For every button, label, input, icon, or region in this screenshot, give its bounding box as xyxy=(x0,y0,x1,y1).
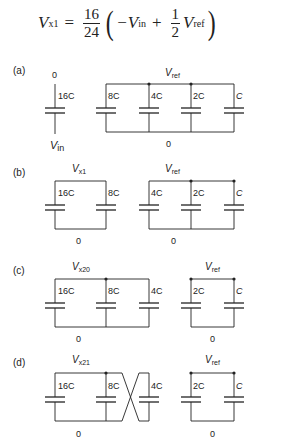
panel-c-ground-right: 0 xyxy=(210,334,215,344)
panel-b-ground-left: 0 xyxy=(76,236,81,246)
cap-c-b: C xyxy=(236,188,243,198)
cap-c-a: C xyxy=(236,91,243,101)
panel-a-vin: Vin xyxy=(50,139,64,153)
panel-c-ground-left: 0 xyxy=(76,334,81,344)
cap-2c-a: 2C xyxy=(193,91,205,101)
panel-a-label: (a) xyxy=(13,65,25,76)
panel-b-label: (b) xyxy=(13,167,25,178)
cap-8c-b: 8C xyxy=(108,188,120,198)
cap-16c-d: 16C xyxy=(58,381,75,391)
cap-2c-c: 2C xyxy=(193,286,205,296)
cap-8c-a: 8C xyxy=(108,91,120,101)
cap-16c-b: 16C xyxy=(58,188,75,198)
panel-d: (d) Vx21 16C 8C 4C 0 Vref 2C C 0 xyxy=(13,354,244,439)
cap-c-d: C xyxy=(236,381,243,391)
cap-2c-b: 2C xyxy=(193,188,205,198)
panel-b-vx1: Vx1 xyxy=(72,163,86,175)
panel-c: (c) Vx20 16C 8C 4C 0 Vref 2C C 0 xyxy=(13,261,244,344)
panel-a-vref: Vref xyxy=(165,67,180,79)
cap-4c-a: 4C xyxy=(151,91,163,101)
cap-4c-c: 4C xyxy=(151,286,163,296)
panel-c-label: (c) xyxy=(13,265,25,276)
panel-b: (b) Vx1 16C 8C 0 Vref 4C 2C C 0 xyxy=(13,163,244,246)
cap-4c-b: 4C xyxy=(151,188,163,198)
cap-4c-d: 4C xyxy=(151,381,163,391)
panel-b-ground-right: 0 xyxy=(171,236,176,246)
panel-d-ground-right: 0 xyxy=(210,429,215,439)
cap-2c-d: 2C xyxy=(193,381,205,391)
circuit-diagrams: (a) 0 16C Vin 8C 4C 2C C Vref 0 (b) Vx1 xyxy=(0,0,304,447)
cap-8c-d: 8C xyxy=(108,381,120,391)
panel-c-vx20: Vx20 xyxy=(72,261,90,273)
panel-d-ground-left: 0 xyxy=(76,429,81,439)
panel-c-vref: Vref xyxy=(205,261,220,273)
panel-a-ground: 0 xyxy=(166,139,171,149)
panel-d-vref: Vref xyxy=(205,354,220,366)
panel-d-label: (d) xyxy=(13,357,25,368)
panel-b-vref: Vref xyxy=(165,163,180,175)
cap-c-c: C xyxy=(236,286,243,296)
cap-16c-c: 16C xyxy=(58,286,75,296)
panel-a: (a) 0 16C Vin 8C 4C 2C C Vref 0 xyxy=(13,65,244,153)
cap-8c-c: 8C xyxy=(108,286,120,296)
panel-d-vx21: Vx21 xyxy=(72,354,90,366)
cap-16c-a: 16C xyxy=(58,91,75,101)
panel-a-node-0: 0 xyxy=(52,70,57,80)
